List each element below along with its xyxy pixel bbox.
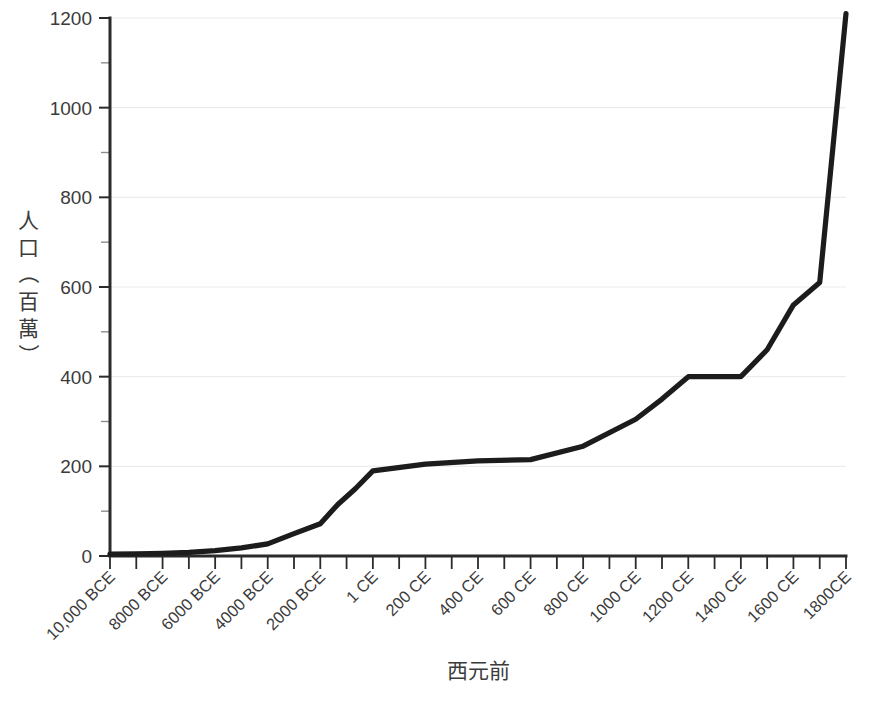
- y-axis-title-char: 口: [18, 236, 39, 259]
- y-axis-title-char: 萬: [18, 317, 39, 340]
- y-tick-label: 1200: [50, 8, 92, 29]
- y-axis-title-char: ）: [17, 344, 40, 365]
- y-axis-title-char: （: [17, 263, 40, 284]
- y-axis-title-char: 人: [18, 209, 39, 232]
- y-tick-label: 0: [81, 546, 92, 567]
- y-axis-title-char: 百: [18, 290, 39, 313]
- x-axis-title: 西元前: [447, 659, 510, 682]
- y-tick-label: 400: [60, 367, 92, 388]
- y-tick-label: 600: [60, 277, 92, 298]
- population-line-chart: 020040060080010001200 10,000 BCE8000 BCE…: [0, 0, 873, 703]
- chart-canvas: 020040060080010001200 10,000 BCE8000 BCE…: [0, 0, 873, 703]
- y-tick-label: 200: [60, 456, 92, 477]
- y-tick-label: 1000: [50, 98, 92, 119]
- y-tick-label: 800: [60, 187, 92, 208]
